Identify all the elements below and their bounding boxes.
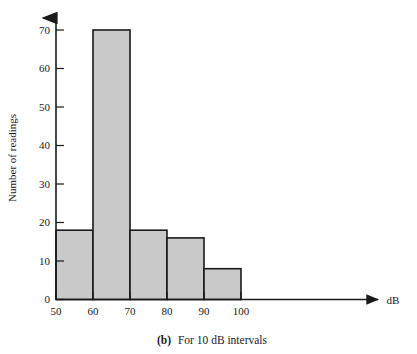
y-axis-tick-label: 0 — [45, 293, 51, 305]
y-axis-tick-label: 40 — [39, 139, 51, 151]
y-axis-tick-label: 30 — [39, 178, 51, 190]
figure-caption: (b) For 10 dB intervals — [157, 334, 268, 347]
x-axis-title: dB — [387, 294, 400, 306]
histogram-bar — [56, 230, 93, 299]
bars-group — [56, 30, 241, 300]
x-axis-tick-label: 90 — [199, 305, 211, 317]
histogram-bar — [167, 238, 204, 300]
y-axis-tick-label: 60 — [39, 62, 51, 74]
y-axis-tick-label: 10 — [39, 255, 51, 267]
x-axis-tick-label: 50 — [51, 305, 63, 317]
histogram-bar — [204, 269, 241, 300]
histogram-bar — [130, 230, 167, 299]
histogram-figure: 010203040506070 5060708090100 dB Number … — [0, 0, 417, 354]
figure-caption-text: For 10 dB intervals — [178, 334, 268, 346]
x-axis-tick-label: 100 — [233, 305, 250, 317]
y-axis-tick-label: 70 — [39, 24, 51, 36]
histogram-chart: 010203040506070 5060708090100 dB Number … — [0, 0, 417, 354]
y-axis-tick-label: 20 — [39, 216, 51, 228]
figure-caption-prefix: (b) — [157, 334, 171, 347]
x-axis-tick-label: 70 — [125, 305, 137, 317]
x-axis-tick-label: 80 — [162, 305, 174, 317]
histogram-bar — [93, 30, 130, 300]
x-axis-tick-labels: 5060708090100 — [51, 305, 250, 317]
y-axis-tick-labels: 010203040506070 — [39, 24, 51, 306]
y-axis-tick-label: 50 — [39, 101, 51, 113]
x-axis-tick-label: 60 — [88, 305, 100, 317]
y-axis-title: Number of readings — [6, 114, 18, 202]
